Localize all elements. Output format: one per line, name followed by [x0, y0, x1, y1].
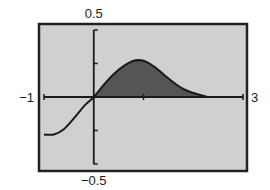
- x-max-label: 3: [251, 90, 258, 105]
- y-min-label: −0.5: [81, 173, 107, 188]
- y-max-label: 0.5: [85, 6, 103, 21]
- x-min-label: −1: [19, 90, 34, 105]
- chart-svg: 0.5 −0.5 −1 3: [0, 0, 270, 190]
